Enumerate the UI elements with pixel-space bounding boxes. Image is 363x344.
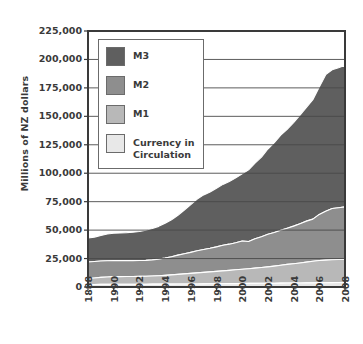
x-tick-label: 1996: [186, 276, 197, 316]
legend-swatch-icon: [106, 105, 125, 124]
legend-swatch-icon: [106, 47, 125, 66]
x-tick-label: 1994: [160, 276, 171, 316]
x-tick-label: 2000: [237, 276, 248, 316]
legend-swatch-icon: [106, 76, 125, 95]
legend-item: M3: [106, 47, 203, 69]
legend-label: Currency in Circulation: [133, 134, 194, 160]
money-supply-area-chart: Millions of NZ dollars 225,000200,000175…: [0, 0, 363, 344]
x-tick-label: 1990: [109, 276, 120, 316]
legend-swatch-icon: [106, 134, 125, 153]
x-tick-label: 1992: [134, 276, 145, 316]
legend-label: M3: [133, 47, 149, 62]
legend-item: Currency in Circulation: [106, 134, 203, 156]
legend-label: M2: [133, 76, 149, 91]
x-tick-label: 1998: [212, 276, 223, 316]
legend-item: M1: [106, 105, 203, 127]
x-tick-label: 2002: [263, 276, 274, 316]
x-tick-label: 2008: [340, 276, 351, 316]
legend-label: M1: [133, 105, 149, 120]
x-tick-label: 2006: [314, 276, 325, 316]
x-tick-label: 2004: [289, 276, 300, 316]
x-tick-label: 1888: [83, 276, 94, 316]
chart-legend: M3M2M1Currency in Circulation: [98, 39, 204, 169]
legend-item: M2: [106, 76, 203, 98]
